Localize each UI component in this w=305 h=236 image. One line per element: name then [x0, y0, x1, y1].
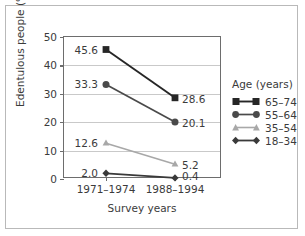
point-label-35-54-1971: 12.6: [75, 137, 98, 149]
point-label-55-64-1971: 33.3: [75, 78, 98, 90]
x-tick-label-1971-1974: 1971–1974: [77, 183, 136, 195]
y-tick-label-10: 10: [44, 145, 57, 157]
chart-figure: Edentulous people (%) 50 40 30 20 10 0 1…: [0, 0, 305, 236]
plot-area: 50 40 30 20 10 0 1971–1974 1988–1994: [63, 36, 221, 178]
series-18-34: [102, 170, 178, 182]
y-tick-mark-0: [60, 179, 64, 180]
y-axis-title: Edentulous people (%): [14, 0, 26, 107]
legend-title: Age (years): [232, 78, 297, 90]
series-65-74: [103, 46, 179, 101]
legend-marker-diamond-icon: [232, 135, 260, 146]
figure-frame: Edentulous people (%) 50 40 30 20 10 0 1…: [5, 5, 298, 229]
legend-label-55-64: 55–64: [265, 109, 297, 121]
legend-item-35-54[interactable]: 35–54: [232, 121, 297, 134]
legend-marker-square-icon: [232, 96, 260, 107]
y-tick-label-0: 0: [50, 173, 57, 185]
series-35-54: [103, 139, 179, 166]
y-tick-label-30: 30: [44, 88, 57, 100]
y-tick-label-20: 20: [44, 116, 57, 128]
point-label-65-74-1971: 45.6: [75, 44, 98, 56]
chart-legend: Age (years) 65–74 55–64: [232, 78, 297, 147]
legend-item-55-64[interactable]: 55–64: [232, 108, 297, 121]
series-55-64: [103, 81, 179, 126]
legend-label-35-54: 35–54: [265, 122, 297, 134]
y-tick-label-40: 40: [44, 59, 57, 71]
legend-label-65-74: 65–74: [265, 96, 297, 108]
point-label-18-34-1971: 2.0: [81, 167, 98, 179]
point-label-18-34-1988: 0.4: [182, 170, 199, 182]
point-label-35-54-1988: 5.2: [182, 159, 199, 171]
legend-item-18-34[interactable]: 18–34: [232, 134, 297, 147]
x-tick-label-1988-1994: 1988–1994: [146, 183, 205, 195]
legend-item-65-74[interactable]: 65–74: [232, 95, 297, 108]
point-label-65-74-1988: 28.6: [182, 93, 205, 105]
x-axis-title: Survey years: [63, 202, 221, 214]
legend-label-18-34: 18–34: [265, 135, 297, 147]
legend-marker-triangle-icon: [232, 122, 260, 133]
y-tick-label-50: 50: [44, 31, 57, 43]
point-label-55-64-1988: 20.1: [182, 117, 205, 129]
legend-marker-circle-icon: [232, 109, 260, 120]
